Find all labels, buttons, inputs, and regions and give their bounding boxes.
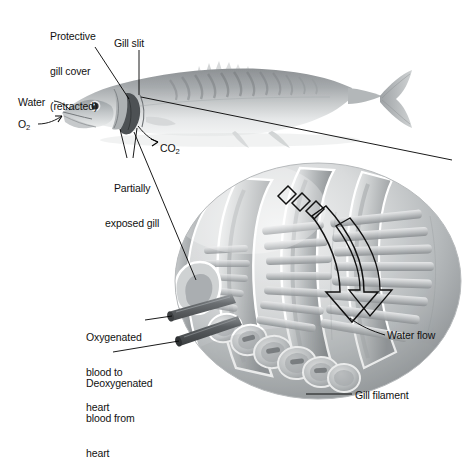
label-partially-exposed-gill-line1: Partially bbox=[105, 183, 159, 195]
caudal-fin bbox=[380, 70, 412, 128]
label-deoxygenated-blood-line3: heart bbox=[86, 448, 153, 460]
label-gill-slit: Gill slit bbox=[114, 38, 144, 50]
caudal-peduncle bbox=[348, 88, 382, 104]
label-oxygen: O2 bbox=[18, 119, 30, 132]
label-deoxygenated-blood: Deoxygenated blood from heart bbox=[86, 355, 153, 461]
label-protective-gill-cover-line2: gill cover bbox=[50, 66, 97, 78]
label-oxygen-symbol: O bbox=[18, 118, 26, 130]
label-carbon-dioxide-symbol: CO bbox=[160, 142, 176, 154]
label-partially-exposed-gill: Partially exposed gill bbox=[105, 160, 159, 253]
label-oxygen-subscript: 2 bbox=[26, 123, 30, 132]
label-protective-gill-cover: Protective gill cover (retracted) bbox=[50, 8, 97, 136]
label-protective-gill-cover-line1: Protective bbox=[50, 31, 97, 43]
label-water-flow: Water flow bbox=[387, 330, 435, 342]
label-partially-exposed-gill-line2: exposed gill bbox=[105, 218, 159, 230]
label-carbon-dioxide-subscript: 2 bbox=[176, 147, 180, 156]
label-carbon-dioxide: CO2 bbox=[160, 143, 180, 156]
label-deoxygenated-blood-line2: blood from bbox=[86, 413, 153, 425]
fish-body bbox=[62, 69, 352, 137]
label-protective-gill-cover-line3: (retracted) bbox=[50, 101, 97, 113]
gill-basket-illustration bbox=[155, 162, 461, 418]
label-deoxygenated-blood-line1: Deoxygenated bbox=[86, 378, 153, 390]
label-oxygenated-blood-line1: Oxygenated bbox=[86, 332, 142, 344]
label-gill-filament: Gill filament bbox=[355, 390, 409, 402]
label-water: Water bbox=[18, 97, 45, 109]
fish-illustration bbox=[62, 61, 412, 148]
